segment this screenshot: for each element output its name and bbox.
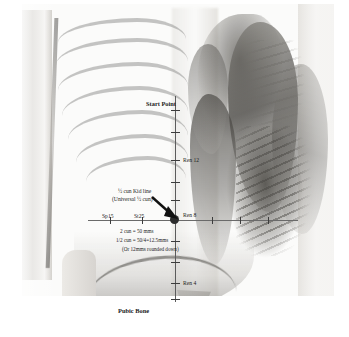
point-label-ren-8: Ren 8 <box>183 212 196 220</box>
measurement-line-2: 1/2 cun = 50/4=12.5mms <box>116 237 168 244</box>
pubic-bone-label: Pubic Bone <box>118 307 149 316</box>
umbilicus-level-ruler <box>88 220 298 221</box>
lateral-tick <box>240 217 241 224</box>
point-label-ren-4: Ren 4 <box>183 280 196 288</box>
measurement-line-1: 2 cun = 50 mms <box>120 228 153 235</box>
midline-tick <box>171 132 180 133</box>
point-label-ren-12: Ren 12 <box>183 157 199 165</box>
midline-tick-ren-12 <box>171 160 180 161</box>
midline-tick <box>171 110 180 111</box>
midline-tick <box>171 299 180 300</box>
measurement-line-3: (Or 12mms rounded down) <box>122 246 179 253</box>
kid-line-label-secondary: (Universal ½ cun) <box>112 196 153 204</box>
point-label-st25: St25 <box>134 213 144 221</box>
annotation-overlay: Start Point Ren 12 Ren 8 Ren 4 Sp15 St25… <box>0 0 349 337</box>
start-point-label: Start Point <box>146 100 176 109</box>
kid-line-label-primary: ½ cun Kid line <box>118 188 151 196</box>
point-label-sp15: Sp15 <box>102 213 114 221</box>
midline-tick-ren-4 <box>171 283 180 284</box>
pointer-arrow-icon <box>150 196 180 220</box>
lateral-tick <box>268 217 269 224</box>
midline-tick <box>171 182 180 183</box>
midline-tick <box>171 241 180 242</box>
lateral-tick <box>212 217 213 224</box>
midline-tick <box>171 262 180 263</box>
anatomy-figure-screenshot: Start Point Ren 12 Ren 8 Ren 4 Sp15 St25… <box>0 0 349 337</box>
